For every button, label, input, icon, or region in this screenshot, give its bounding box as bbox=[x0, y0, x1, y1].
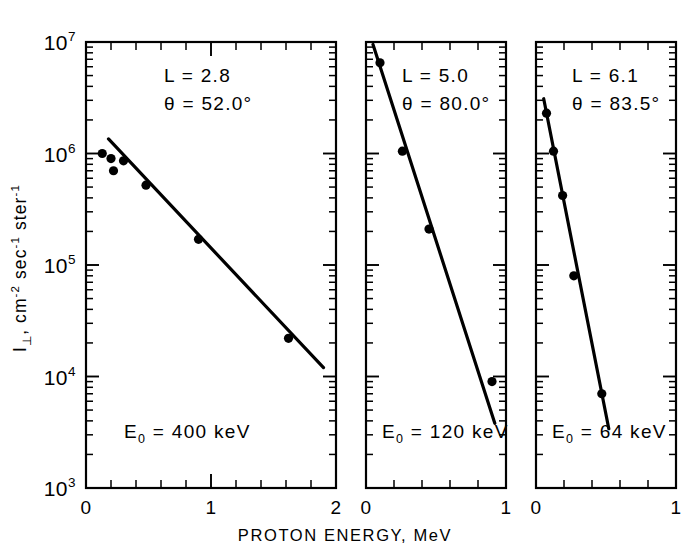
data-point bbox=[98, 149, 107, 158]
x-tick-label: 0 bbox=[530, 497, 541, 518]
y-axis-title: I⊥, cm-2 sec-1 ster-1 bbox=[9, 184, 33, 352]
annotation-E0-panel-3: E0 = 64 keV bbox=[552, 421, 667, 446]
annotation-theta-panel-2: θ = 80.0° bbox=[402, 93, 491, 114]
annotation-L-panel-1: L = 2.8 bbox=[164, 65, 231, 86]
x-tick-label: 1 bbox=[205, 497, 216, 518]
data-point bbox=[424, 224, 433, 233]
x-tick-label: 1 bbox=[500, 497, 511, 518]
x-tick-label: 1 bbox=[670, 497, 681, 518]
x-tick-label: 0 bbox=[80, 497, 91, 518]
x-tick-label: 2 bbox=[330, 497, 341, 518]
x-tick-label: 0 bbox=[360, 497, 371, 518]
y-tick-label: 107 bbox=[44, 29, 76, 54]
annotation-theta-panel-1: θ = 52.0° bbox=[164, 93, 253, 114]
data-point bbox=[558, 191, 567, 200]
data-point bbox=[549, 147, 558, 156]
y-tick-label: 104 bbox=[44, 364, 76, 389]
data-point bbox=[194, 235, 203, 244]
figure-container: 012L = 2.8θ = 52.0°E0 = 400 keV01L = 5.0… bbox=[0, 0, 682, 553]
data-point bbox=[398, 147, 407, 156]
y-tick-label: 106 bbox=[44, 141, 76, 166]
annotation-E0-panel-2: E0 = 120 keV bbox=[382, 421, 509, 446]
data-point bbox=[375, 58, 384, 67]
annotation-E0-panel-1: E0 = 400 keV bbox=[124, 421, 251, 446]
y-tick-label: 103 bbox=[44, 475, 76, 500]
x-axis-title: PROTON ENERGY, MeV bbox=[238, 526, 452, 544]
data-point bbox=[109, 166, 118, 175]
data-point bbox=[106, 154, 115, 163]
annotation-L-panel-3: L = 6.1 bbox=[572, 65, 639, 86]
data-point bbox=[487, 377, 496, 386]
data-point bbox=[597, 389, 606, 398]
svg-text:I⊥, cm-2 sec-1 ster-1: I⊥, cm-2 sec-1 ster-1 bbox=[9, 184, 33, 352]
annotation-theta-panel-3: θ = 83.5° bbox=[572, 93, 661, 114]
y-tick-label: 105 bbox=[44, 252, 76, 277]
annotation-L-panel-2: L = 5.0 bbox=[402, 65, 469, 86]
data-point bbox=[141, 181, 150, 190]
data-point bbox=[284, 334, 293, 343]
data-point bbox=[542, 109, 551, 118]
fit-line-panel-1 bbox=[109, 139, 324, 368]
data-point bbox=[119, 156, 128, 165]
proton-energy-spectra-chart: 012L = 2.8θ = 52.0°E0 = 400 keV01L = 5.0… bbox=[0, 0, 682, 553]
data-point bbox=[569, 271, 578, 280]
